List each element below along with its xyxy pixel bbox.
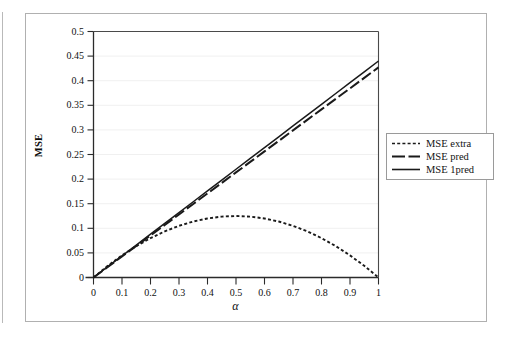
y-axis-tick-label: 0.1 [40,223,84,233]
legend-swatch-dashed-icon [391,151,421,162]
y-axis-tick-label: 0.2 [40,174,84,184]
y-axis-tick-label: 0.15 [40,199,84,209]
legend-label-mse-1pred: MSE 1pred [426,164,474,175]
y-axis-tick-label: 0.25 [40,150,84,160]
y-axis-tick-label: 0.3 [40,125,84,135]
legend-label-mse-extra: MSE extra [426,138,471,149]
legend-swatch-dotted-icon [391,138,421,149]
x-axis-title: α [0,299,509,314]
x-axis-title-text: α [232,299,238,313]
y-axis-tick-label: 0.05 [40,248,84,258]
y-axis-tick-label: 0.5 [40,27,84,37]
legend-swatch-solid-icon [391,164,421,175]
y-axis-tick-label: 0.45 [40,51,84,61]
y-axis-tick-label: 0.35 [40,100,84,110]
series-line-mse-pred [94,67,379,277]
legend-item-mse-1pred[interactable]: MSE 1pred [391,163,489,176]
x-axis-tick-label: 1 [359,288,399,298]
legend-label-mse-pred: MSE pred [426,151,469,162]
legend-item-mse-extra[interactable]: MSE extra [391,137,489,150]
legend-item-mse-pred[interactable]: MSE pred [391,150,489,163]
legend[interactable]: MSE extra MSE pred MSE 1pred [386,133,494,180]
series-line-mse-1pred [94,61,379,277]
figure-stage: MSE α MSE extra MSE pred [0,0,509,339]
y-axis-tick-label: 0 [40,273,84,283]
y-axis-tick-label: 0.4 [40,76,84,86]
